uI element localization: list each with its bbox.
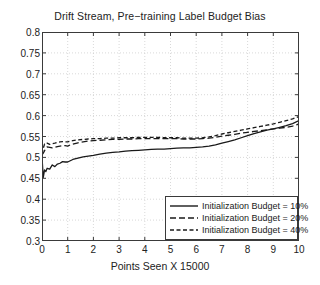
legend-line-sample-1 bbox=[169, 213, 199, 223]
x-axis-label: Points Seen X 15000 bbox=[0, 260, 320, 272]
y-tick-label: 0.45 bbox=[2, 173, 40, 184]
chart-figure: Drift Stream, Pre−training Label Budget … bbox=[0, 0, 320, 285]
chart-title: Drift Stream, Pre−training Label Budget … bbox=[0, 10, 320, 22]
legend-row: Initialization Budget = 10% bbox=[169, 200, 293, 212]
y-tick-label: 0.35 bbox=[2, 215, 40, 226]
y-tick-label: 0.4 bbox=[2, 194, 40, 205]
legend-row: Initialization Budget = 20% bbox=[169, 212, 293, 224]
x-axis-tick-labels: 012345678910 bbox=[42, 244, 299, 258]
y-tick-label: 0.5 bbox=[2, 152, 40, 163]
legend-row: Initialization Budget = 40% bbox=[169, 224, 293, 236]
legend-label: Initialization Budget = 10% bbox=[202, 200, 308, 212]
y-tick-label: 0.7 bbox=[2, 68, 40, 79]
legend-line-sample-2 bbox=[169, 225, 199, 235]
legend-line-sample-0 bbox=[169, 201, 199, 211]
series-line-0 bbox=[42, 121, 299, 178]
y-tick-label: 0.8 bbox=[2, 27, 40, 38]
legend-label: Initialization Budget = 20% bbox=[202, 212, 308, 224]
y-tick-label: 0.65 bbox=[2, 89, 40, 100]
chart-legend: Initialization Budget = 10%Initializatio… bbox=[165, 196, 298, 240]
y-axis-tick-labels: 0.30.350.40.450.50.550.60.650.70.750.8 bbox=[0, 32, 40, 241]
y-tick-label: 0.55 bbox=[2, 131, 40, 142]
x-tick-label: 10 bbox=[284, 244, 314, 255]
y-tick-label: 0.75 bbox=[2, 47, 40, 58]
y-tick-label: 0.6 bbox=[2, 110, 40, 121]
legend-label: Initialization Budget = 40% bbox=[202, 224, 308, 236]
